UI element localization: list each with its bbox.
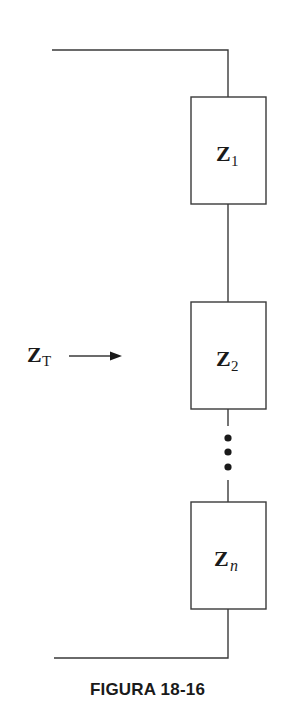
circuit-diagram: Z 1 Z 2 Z n Z T — [0, 0, 295, 703]
z2-subscript: 2 — [231, 358, 239, 374]
z1-subscript: 1 — [231, 153, 239, 169]
z2-main-label: Z — [216, 346, 231, 371]
z1-main-label: Z — [216, 141, 231, 166]
ellipsis-dots-icon — [224, 434, 231, 470]
total-impedance-label: Z T — [27, 342, 51, 369]
bottom-wire — [54, 609, 228, 658]
impedance-z2: Z 2 — [191, 302, 266, 409]
top-wire — [52, 50, 228, 97]
arrow-right-icon — [69, 352, 122, 361]
figure-caption: FIGURA 18-16 — [0, 680, 295, 700]
zt-main-label: Z — [27, 342, 42, 367]
impedance-zn: Z n — [191, 502, 266, 609]
zn-main-label: Z — [214, 546, 229, 571]
impedance-z1: Z 1 — [191, 97, 266, 204]
zt-subscript: T — [42, 353, 51, 369]
zn-subscript: n — [230, 557, 238, 574]
